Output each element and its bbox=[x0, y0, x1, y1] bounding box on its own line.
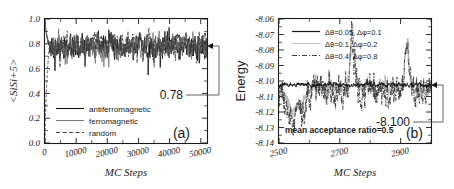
legend-label-ferromagnetic: ferromagnetic bbox=[89, 117, 138, 126]
panel-b-y-axis-label: Energy bbox=[233, 60, 248, 102]
y-tick-label: -8.12 bbox=[255, 107, 274, 117]
annotation-value-a: 0.78 bbox=[160, 88, 184, 102]
y-tick-label: -8.07 bbox=[255, 30, 274, 40]
x-tick-label: 20000 bbox=[95, 145, 120, 160]
y-tick-label: 1.0 bbox=[29, 14, 41, 24]
legend-label-random: random bbox=[89, 129, 116, 138]
series-line-dtheta-0p1 bbox=[279, 23, 431, 119]
x-tick-label: 50000 bbox=[188, 145, 213, 160]
panel-b-legend: Δθ=0.05, Δφ=0.1 Δθ=0.1, Δφ=0.2 Δθ=0.4, Δ… bbox=[292, 28, 382, 61]
panel-b-svg: -8.14-8.13-8.12-8.11-8.10-8.09-8.08-8.07… bbox=[227, 0, 454, 189]
panel-a-legend: antiferromagnetic ferromagnetic random bbox=[56, 105, 151, 138]
y-tick-label: 0.4 bbox=[29, 89, 41, 99]
y-tick-label: 0.6 bbox=[29, 64, 41, 74]
y-tick-label: 0.2 bbox=[29, 113, 41, 123]
y-tick-label: -8.11 bbox=[256, 92, 274, 102]
y-tick-label: -8.09 bbox=[255, 61, 274, 71]
y-tick-label: -8.10 bbox=[255, 76, 274, 86]
legend-label-dtheta-0p05: Δθ=0.05, Δφ=0.1 bbox=[325, 28, 382, 37]
panel-a-svg: 0.00.20.40.60.81.0 010000200003000040000… bbox=[0, 0, 227, 189]
panel-b-y-ticklabels: -8.14-8.13-8.12-8.11-8.10-8.09-8.08-8.07… bbox=[255, 14, 274, 148]
legend-label-antiferromagnetic: antiferromagnetic bbox=[89, 105, 151, 114]
panel-a-x-ticklabels: 01000020000300004000050000 bbox=[41, 145, 213, 160]
y-tick-label: -8.06 bbox=[255, 14, 274, 24]
x-tick-label: 2900 bbox=[390, 145, 410, 159]
panel-a-y-axis-label: <SiSi+5> bbox=[7, 59, 19, 104]
legend-label-dtheta-0p4: Δθ=0.4, Δφ=0.8 bbox=[325, 52, 377, 61]
chart-panel-a: 0.00.20.40.60.81.0 010000200003000040000… bbox=[0, 0, 227, 189]
chart-panel-b: -8.14-8.13-8.12-8.11-8.10-8.09-8.08-8.07… bbox=[227, 0, 454, 189]
y-tick-label: 0.0 bbox=[29, 138, 41, 148]
panel-b-x-ticklabels: 250027002900 bbox=[269, 145, 411, 159]
y-tick-label: 0.8 bbox=[29, 39, 41, 49]
panel-label-a: (a) bbox=[173, 125, 190, 141]
x-tick-label: 2700 bbox=[329, 145, 349, 159]
series-line-dtheta-0p05 bbox=[279, 82, 431, 88]
legend-label-dtheta-0p1: Δθ=0.1, Δφ=0.2 bbox=[325, 40, 377, 49]
panel-a-x-axis-label: MC Steps bbox=[104, 166, 147, 178]
x-tick-label: 40000 bbox=[157, 145, 182, 160]
panel-a-y-ticklabels: 0.00.20.40.60.81.0 bbox=[29, 14, 41, 148]
panel-b-x-axis-label: MC Steps bbox=[333, 166, 376, 178]
y-tick-label: -8.13 bbox=[255, 123, 274, 133]
x-tick-label: 30000 bbox=[125, 145, 151, 160]
panel-label-b: (b) bbox=[406, 125, 423, 141]
y-tick-label: -8.08 bbox=[255, 45, 274, 55]
y-tick-label: -8.14 bbox=[255, 138, 274, 148]
x-tick-label: 10000 bbox=[63, 145, 88, 160]
figure-container: 0.00.20.40.60.81.0 010000200003000040000… bbox=[0, 0, 454, 189]
x-tick-label: 0 bbox=[41, 147, 48, 158]
